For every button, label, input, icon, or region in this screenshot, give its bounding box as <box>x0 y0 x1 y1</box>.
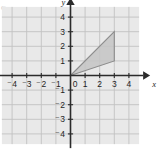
y-tick-label: 3 <box>60 27 65 37</box>
coordinate-plane-figure: C ⁻4⁻3⁻2⁻11234 4321⁻1⁻2⁻3⁻4 0 x y <box>0 0 163 153</box>
coordinate-grid-svg: ⁻4⁻3⁻2⁻11234 4321⁻1⁻2⁻3⁻4 0 x y <box>0 0 163 153</box>
y-axis-arrow-icon <box>66 0 74 5</box>
y-axis-label: y <box>61 0 66 7</box>
x-tick-label: 3 <box>112 79 117 89</box>
x-axis-label: x <box>151 79 156 89</box>
y-tick-label: 2 <box>60 41 65 51</box>
x-tick-label: ⁻2 <box>36 79 46 89</box>
y-tick-label: ⁻3 <box>55 114 65 124</box>
y-tick-label: ⁻4 <box>55 129 65 139</box>
y-tick-label: 1 <box>60 56 65 66</box>
y-tick-label: 4 <box>60 12 65 22</box>
x-tick-label: 1 <box>83 79 88 89</box>
y-tick-label: ⁻2 <box>55 100 65 110</box>
y-tick-label: ⁻1 <box>55 85 65 95</box>
x-tick-label: ⁻4 <box>7 79 17 89</box>
x-axis-arrow-icon <box>143 71 150 79</box>
x-tick-label: ⁻3 <box>22 79 32 89</box>
x-tick-label: 2 <box>97 79 102 89</box>
origin-label: 0 <box>73 79 78 89</box>
x-tick-label: 4 <box>127 79 132 89</box>
